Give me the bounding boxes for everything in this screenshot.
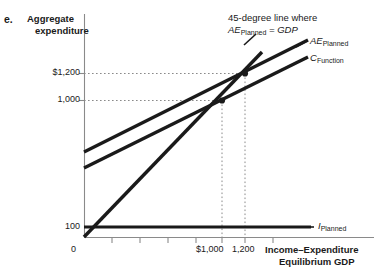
x-axis-title: Income–Expenditure Equilibrium GDP <box>265 244 374 268</box>
origin-label: 0 <box>71 244 76 255</box>
curve-label-c-subscript: Function <box>317 57 344 64</box>
intersection-dot-1200 <box>242 70 248 76</box>
label-leader-lines <box>244 34 314 227</box>
curve-label-c-main: C <box>310 52 317 63</box>
curve-label-ae-planned: AEPlanned <box>310 35 348 47</box>
curve-45-degree-line <box>84 52 262 237</box>
y-tick-label-100: 100 <box>65 221 80 231</box>
annotation-45-equals-gdp: = GDP <box>266 24 297 35</box>
annotation-45-degree-line: 45-degree line where AEPlanned = GDP <box>228 12 317 37</box>
curve-label-ae-subscript: Planned <box>323 40 349 47</box>
x-axis-title-line2: Equilibrium GDP <box>265 256 374 268</box>
annotation-45-ae-subscript: Planned <box>241 29 267 36</box>
y-tick-label-1000: 1,000 <box>57 94 80 104</box>
x-axis-title-line1: Income–Expenditure <box>265 244 358 255</box>
annotation-45-line1: 45-degree line where <box>228 12 317 23</box>
y-axis-title-line2: expenditure <box>27 25 83 37</box>
annotation-45-line2: AEPlanned = GDP <box>228 24 317 37</box>
y-axis-title-line1: Aggregate <box>27 13 74 24</box>
y-axis-title: Aggregate expenditure <box>27 13 83 36</box>
curve-ae-planned <box>84 40 308 152</box>
x-tick-label-1000: $1,000 <box>196 244 224 255</box>
panel-letter: e. <box>4 14 13 25</box>
curve-label-c-function: CFunction <box>310 52 344 64</box>
annotation-45-ae: AE <box>228 24 241 35</box>
intersection-dot-1000 <box>219 97 225 103</box>
aggregate-expenditure-figure: e. Aggregate expenditure $1,200 1,000 10… <box>0 0 374 279</box>
axis-lines <box>84 14 374 238</box>
curve-label-i-planned: IPlanned <box>318 220 346 232</box>
curve-label-ae-main: AE <box>310 35 323 46</box>
x-tick-label-1200: 1,200 <box>232 244 255 255</box>
x-axis-ticks <box>112 238 273 244</box>
y-tick-label-1200: $1,200 <box>52 67 80 77</box>
curve-label-i-subscript: Planned <box>321 225 347 232</box>
